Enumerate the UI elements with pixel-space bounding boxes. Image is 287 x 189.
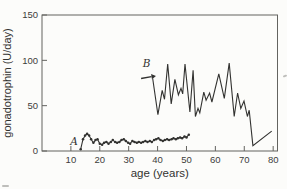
series-A-marker — [88, 134, 91, 137]
series-A-marker — [90, 138, 93, 141]
series-A-marker — [188, 133, 191, 136]
series-A-marker — [120, 139, 123, 142]
series-A-marker — [99, 142, 102, 145]
x-tick-label: 60 — [210, 154, 221, 165]
y-tick-label: 150 — [22, 9, 38, 20]
series-A-marker — [86, 133, 89, 136]
series-B-line — [153, 63, 272, 146]
series-A-marker — [177, 137, 180, 140]
x-tick-label: 80 — [268, 154, 279, 165]
series-A-marker — [129, 142, 132, 145]
series-A-marker — [112, 139, 115, 142]
series-A-marker — [82, 138, 85, 141]
x-tick-label: 50 — [181, 154, 192, 165]
series-A-marker — [96, 138, 99, 141]
series-A-marker — [146, 141, 149, 144]
y-axis-label: gonadotrophin (U/day) — [1, 28, 13, 137]
annotation-arrow-head — [151, 74, 156, 79]
series-A-marker — [138, 141, 141, 144]
series-A-marker — [151, 141, 154, 144]
series-A-marker — [164, 139, 167, 142]
chart-figure: 1020304050607080050100150age (years)gona… — [0, 0, 287, 189]
series-A-marker — [84, 134, 87, 137]
chart-svg: 1020304050607080050100150age (years)gona… — [0, 0, 287, 189]
series-A-marker — [155, 138, 158, 141]
x-tick-label: 30 — [123, 154, 134, 165]
series-A-marker — [157, 137, 160, 140]
y-tick-label: 50 — [27, 100, 38, 111]
series-A-marker — [105, 141, 108, 144]
series-A-marker — [101, 143, 104, 146]
series-B-inline-label: B — [142, 57, 151, 69]
series-A-marker — [79, 148, 82, 151]
x-tick-label: 40 — [152, 154, 163, 165]
series-A-marker — [159, 139, 162, 142]
scan-artifact — [2, 185, 9, 187]
series-A-marker — [181, 137, 184, 140]
annotation-arrow-tail — [141, 77, 151, 79]
series-A-marker — [168, 139, 171, 142]
series-A-marker — [103, 142, 106, 145]
series-A-inline-label: A — [69, 135, 78, 147]
series-A-marker — [110, 141, 113, 144]
series-A-marker — [125, 140, 128, 143]
series-A-marker — [116, 142, 119, 145]
series-A-marker — [123, 138, 126, 141]
series-A-marker — [142, 141, 145, 144]
series-A-marker — [107, 142, 110, 145]
y-tick-label: 0 — [33, 145, 38, 156]
x-tick-label: 20 — [95, 154, 106, 165]
y-tick-label: 100 — [22, 55, 38, 66]
x-tick-label: 70 — [239, 154, 250, 165]
series-A-marker — [92, 142, 95, 145]
plot-frame — [42, 15, 278, 151]
series-A-marker — [133, 141, 136, 144]
series-A-marker — [118, 141, 121, 144]
series-A-marker — [185, 136, 188, 139]
x-axis-label: age (years) — [131, 167, 189, 179]
x-tick-label: 10 — [66, 154, 77, 165]
series-A-marker — [172, 137, 175, 140]
